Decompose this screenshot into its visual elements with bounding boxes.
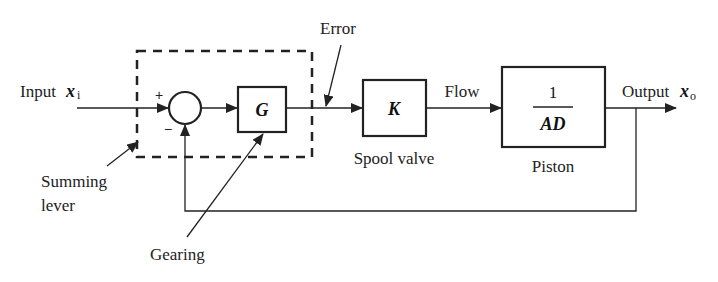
summing-junction bbox=[169, 92, 201, 124]
gearing-block-label: G bbox=[256, 100, 269, 120]
piston-denominator: AD bbox=[539, 114, 565, 134]
summing-lever-label-line2: lever bbox=[41, 196, 75, 215]
minus-sign: − bbox=[164, 121, 172, 137]
input-label: Input bbox=[20, 82, 56, 101]
output-label: Output bbox=[622, 82, 670, 101]
input-symbol: x bbox=[65, 81, 75, 101]
spool-valve-block-label: K bbox=[387, 99, 402, 119]
error-pointer-arrow bbox=[326, 45, 341, 106]
plus-sign: + bbox=[155, 87, 163, 103]
gearing-pointer-arrow bbox=[187, 134, 263, 237]
gearing-label: Gearing bbox=[150, 245, 205, 264]
error-label: Error bbox=[320, 19, 356, 38]
piston-numerator: 1 bbox=[549, 83, 558, 102]
summing-lever-pointer-arrow bbox=[107, 142, 138, 166]
piston-caption: Piston bbox=[532, 157, 575, 176]
block-diagram: + − G K Spool valve Flow 1 AD Piston Inp… bbox=[0, 0, 718, 282]
summing-lever-label-line1: Summing bbox=[41, 172, 108, 191]
input-subscript: i bbox=[77, 88, 81, 102]
flow-label: Flow bbox=[445, 82, 481, 101]
output-symbol: x bbox=[679, 81, 689, 101]
spool-valve-caption: Spool valve bbox=[354, 149, 435, 168]
output-subscript: o bbox=[690, 89, 696, 103]
